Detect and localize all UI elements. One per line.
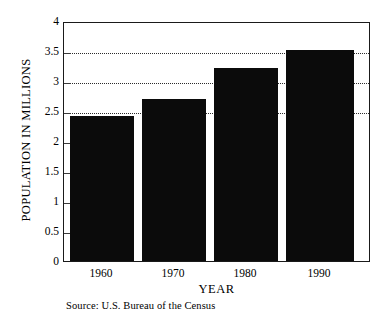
x-tick-label-1970: 1970 — [141, 266, 205, 280]
y-tickmark-2-5 — [64, 113, 71, 114]
y-axis-tick-labels: 0 0.5 1 1.5 2 2.5 3 3.5 4 — [26, 0, 59, 320]
source-note: Source: U.S. Bureau of the Census — [66, 300, 215, 311]
x-tick-label-1980: 1980 — [213, 266, 277, 280]
bar-1970 — [142, 99, 206, 261]
bar-1990 — [286, 50, 354, 261]
y-tick-label: 3.5 — [26, 46, 59, 57]
bar-1980 — [214, 68, 278, 261]
y-tickmark-3-0 — [64, 83, 71, 84]
y-tick-label: 4 — [26, 16, 59, 27]
bar-chart-figure: POPULATION IN MILLIONS 0 0.5 1 1.5 2 2.5… — [0, 0, 387, 320]
y-tick-label: 3 — [26, 76, 59, 87]
plot-area — [63, 22, 370, 262]
y-tick-label: 1 — [26, 196, 59, 207]
bar-1960 — [70, 116, 134, 261]
x-tick-label-1990: 1990 — [285, 266, 353, 280]
x-axis-title: YEAR — [63, 282, 370, 297]
y-tick-label: 2.5 — [26, 106, 59, 117]
y-tick-label: 1.5 — [26, 166, 59, 177]
y-tickmark-3-5 — [64, 53, 71, 54]
y-tick-label: 0 — [26, 256, 59, 267]
y-tick-label: 2 — [26, 136, 59, 147]
x-tick-label-1960: 1960 — [69, 266, 133, 280]
y-tick-label: 0.5 — [26, 226, 59, 237]
